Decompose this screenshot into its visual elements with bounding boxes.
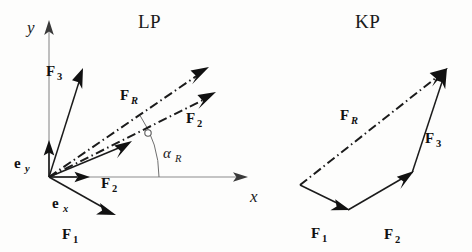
alpha-r-label-base: α bbox=[163, 145, 172, 161]
F3-label-base: F bbox=[46, 63, 55, 79]
F1-label-base: F bbox=[62, 226, 71, 242]
F2-label-base: F bbox=[101, 175, 110, 191]
kp-label-FR: F R bbox=[340, 107, 358, 126]
ex-label-sub: x bbox=[62, 203, 68, 214]
lp-label-ey: e y bbox=[14, 155, 30, 174]
F2-resolved-label-sub: 2 bbox=[197, 118, 202, 129]
panel-kp: KP F 1 F 2 F 3 F R bbox=[300, 11, 448, 245]
kp-F2-label-sub: 2 bbox=[395, 234, 400, 245]
lp-force-F2 bbox=[49, 141, 132, 177]
kp-label-F2: F 2 bbox=[384, 226, 400, 245]
y-axis-label: y bbox=[25, 18, 35, 37]
kp-force-F1 bbox=[300, 185, 350, 210]
kp-label-F3: F 3 bbox=[425, 130, 441, 149]
lp-label-F2: F 2 bbox=[101, 175, 117, 194]
F2-resolved-shaft bbox=[49, 99, 205, 177]
kp-force-FR bbox=[300, 68, 448, 185]
F2-resolved-label-base: F bbox=[186, 110, 195, 126]
panel-lp: LP y x e y e x F 3 F 1 F 2 F R F 2 bbox=[14, 11, 258, 245]
F2-resolved-arrowhead bbox=[197, 92, 216, 109]
panel-title-lp: LP bbox=[138, 11, 161, 32]
kp-FR-label-base: F bbox=[340, 107, 349, 123]
kp-F1-label-sub: 1 bbox=[322, 233, 327, 244]
kp-F2-label-base: F bbox=[384, 226, 393, 242]
kp-force-F2 bbox=[348, 171, 414, 210]
intersection-dot bbox=[145, 130, 151, 136]
vector-diagram-figure: LP y x e y e x F 3 F 1 F 2 F R F 2 bbox=[0, 0, 472, 252]
kp-F3-label-base: F bbox=[425, 130, 434, 146]
kp-FR-shaft bbox=[300, 77, 437, 185]
ex-label-base: e bbox=[52, 195, 59, 211]
alpha-r-arc bbox=[140, 116, 159, 177]
lp-force-FR bbox=[49, 67, 209, 177]
lp-unit-ey bbox=[44, 140, 55, 177]
lp-label-alphaR: α R bbox=[163, 145, 182, 164]
ey-label-base: e bbox=[14, 155, 21, 171]
lp-label-F1: F 1 bbox=[62, 226, 78, 245]
F1-label-sub: 1 bbox=[73, 234, 78, 245]
lp-angle-arc-group bbox=[140, 116, 159, 177]
F3-label-sub: 3 bbox=[57, 71, 62, 82]
kp-F3-shaft bbox=[412, 82, 442, 173]
x-axis-label: x bbox=[249, 187, 258, 206]
FR-label-sub: R bbox=[130, 95, 138, 106]
kp-F1-shaft bbox=[300, 185, 339, 204]
F2-shaft bbox=[49, 147, 121, 177]
kp-label-F1: F 1 bbox=[311, 225, 327, 244]
FR-label-base: F bbox=[120, 87, 129, 103]
lp-label-FR: F R bbox=[120, 87, 138, 106]
F2-label-sub: 2 bbox=[112, 183, 117, 194]
lp-label-F2-resolved: F 2 bbox=[186, 110, 202, 129]
alpha-r-label-sub: R bbox=[174, 153, 182, 164]
ey-label-sub: y bbox=[23, 163, 30, 174]
lp-axes bbox=[44, 20, 248, 182]
F3-shaft bbox=[49, 82, 79, 177]
lp-force-F3 bbox=[49, 68, 83, 177]
FR-arrowhead bbox=[191, 67, 210, 84]
kp-FR-label-sub: R bbox=[350, 115, 358, 126]
kp-F2-shaft bbox=[348, 178, 403, 210]
kp-F3-label-sub: 3 bbox=[436, 138, 441, 149]
diagram-canvas: LP y x e y e x F 3 F 1 F 2 F R F 2 bbox=[0, 0, 472, 252]
panel-title-kp: KP bbox=[355, 11, 380, 32]
lp-label-ex: e x bbox=[52, 195, 68, 214]
lp-label-F3: F 3 bbox=[46, 63, 62, 82]
kp-F1-label-base: F bbox=[311, 225, 320, 241]
